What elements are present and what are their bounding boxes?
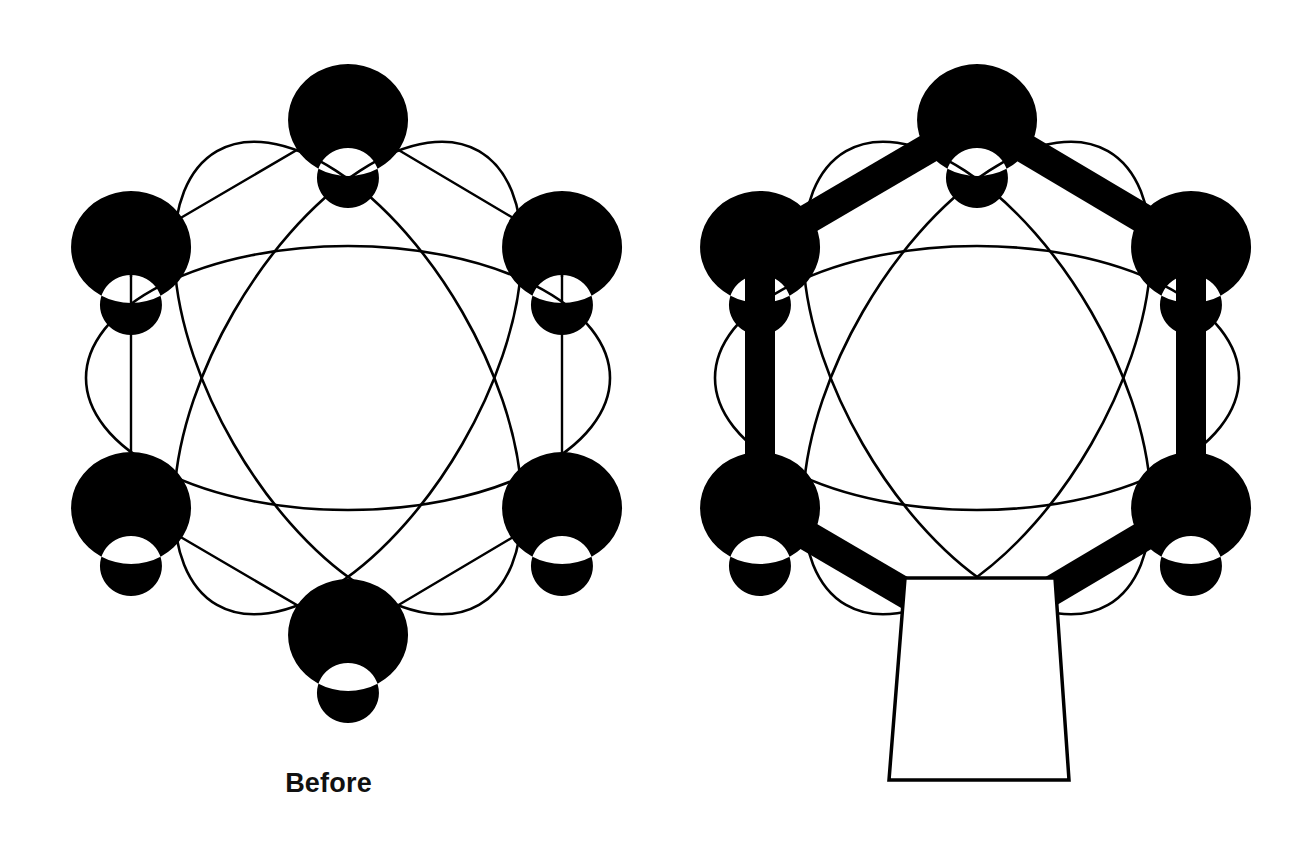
node-ring-lower-right[interactable] xyxy=(502,452,622,596)
caption-after: After xyxy=(1291,768,1314,799)
node-ring-bottom[interactable] xyxy=(288,579,408,723)
before-nodes xyxy=(71,64,622,723)
node-ring-lower-left[interactable] xyxy=(71,452,191,596)
trapezoid-shape[interactable] xyxy=(889,578,1069,780)
caption-before: Before xyxy=(0,768,657,799)
diagram-canvas: Before xyxy=(0,0,1314,846)
panel-before: Before xyxy=(0,0,657,846)
before-diagram-svg xyxy=(0,0,657,846)
node-ring-top[interactable] xyxy=(288,64,408,208)
replacement-trapezoid[interactable] xyxy=(889,578,1069,780)
after-diagram-svg xyxy=(657,0,1314,846)
panel-after: After xyxy=(657,0,1314,846)
